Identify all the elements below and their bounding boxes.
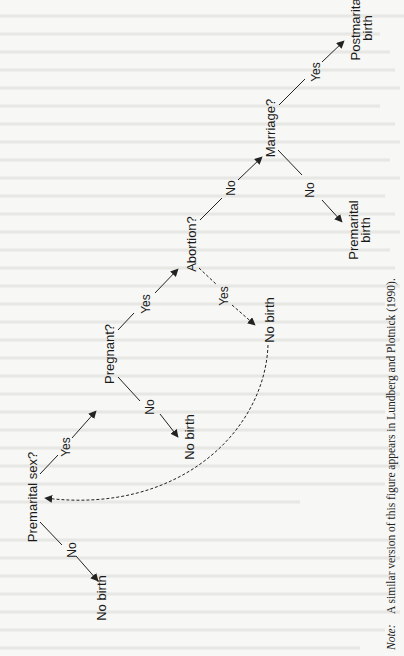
- node-marriage: Marriage?: [263, 99, 278, 158]
- note-text: A similar version of this figure appears…: [385, 278, 398, 614]
- book-page: Yes No Yes No No Yes: [0, 0, 404, 656]
- edge-label-abortion-no: No: [224, 180, 238, 196]
- node-no-birth-no-sex: No birth: [94, 575, 109, 621]
- note-label: Note:: [385, 624, 397, 651]
- feedback-loop-arrow: [45, 345, 268, 500]
- node-no-birth-abortion: No birth: [262, 297, 277, 343]
- node-premarital-birth-line2: birth: [358, 217, 373, 242]
- figure-note: Note: A similar version of this figure a…: [385, 278, 398, 651]
- decision-tree-diagram: Yes No Yes No No Yes: [0, 0, 404, 656]
- edge-label-pregnant-yes: Yes: [139, 294, 153, 314]
- node-abortion: Abortion?: [184, 216, 199, 272]
- edge-sex-no: No: [40, 522, 98, 581]
- edge-label-marriage-no: No: [303, 182, 317, 198]
- edge-pregnant-yes: Yes: [118, 269, 178, 330]
- edge-sex-yes: Yes: [40, 411, 96, 474]
- edge-label-abortion-yes: Yes: [217, 286, 231, 306]
- node-no-birth-not-pregnant: No birth: [182, 414, 197, 460]
- edge-label-sex-no: No: [65, 542, 79, 558]
- edge-marriage-yes: Yes: [279, 41, 344, 105]
- edge-abortion-no: No: [200, 157, 262, 220]
- edge-label-marriage-yes: Yes: [309, 62, 323, 82]
- edge-marriage-no: No: [278, 150, 342, 222]
- node-postmarital-birth-line2: birth: [360, 15, 375, 40]
- edge-label-pregnant-no: No: [143, 399, 157, 415]
- node-premarital-sex: Premarital sex?: [25, 452, 40, 542]
- node-pregnant: Pregnant?: [102, 324, 117, 384]
- edge-abortion-yes: Yes: [199, 268, 255, 325]
- edge-label-sex-yes: Yes: [59, 437, 73, 457]
- edge-pregnant-no: No: [118, 377, 178, 437]
